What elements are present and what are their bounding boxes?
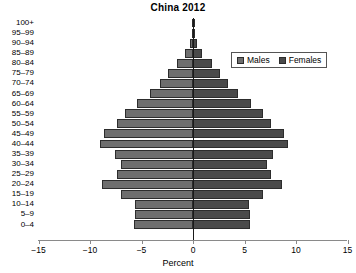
- bar-males: [104, 129, 193, 138]
- bar-females: [193, 89, 238, 98]
- bar-males: [168, 69, 193, 78]
- x-axis-tick: [296, 240, 297, 244]
- x-axis-tick-label: 5: [225, 245, 265, 255]
- bar-males: [115, 150, 193, 159]
- bar-females: [193, 190, 263, 199]
- bar-males: [125, 109, 193, 118]
- bar-females: [193, 59, 212, 68]
- bar-males: [137, 99, 193, 108]
- zero-axis-line: [193, 18, 194, 240]
- legend-swatch-females-icon: [279, 57, 286, 64]
- x-axis-tick: [245, 240, 246, 244]
- chart-legend: Males Females: [231, 52, 327, 68]
- bar-males: [160, 79, 193, 88]
- y-axis-labels: 100+95–9990–9485–8980–8475–7970–7465–696…: [0, 18, 34, 240]
- x-axis-tick-label: 10: [276, 245, 316, 255]
- bar-males: [100, 140, 193, 149]
- y-axis-tick-label: 20–24: [0, 179, 34, 189]
- y-axis-tick-label: 70–74: [0, 78, 34, 88]
- y-axis-tick-label: 95–99: [0, 28, 34, 38]
- bar-females: [193, 220, 250, 229]
- bar-males: [121, 160, 193, 169]
- bar-males: [117, 170, 193, 179]
- y-axis-tick-label: 45–49: [0, 129, 34, 139]
- y-axis-tick-label: 10–14: [0, 199, 34, 209]
- x-axis-tick-label: −5: [122, 245, 162, 255]
- y-axis-tick-label: 25–29: [0, 169, 34, 179]
- y-axis-tick-label: 100+: [0, 18, 34, 28]
- y-axis-tick-label: 15–19: [0, 189, 34, 199]
- bar-males: [121, 190, 193, 199]
- bar-females: [193, 140, 288, 149]
- y-axis-spacer: [0, 230, 34, 240]
- legend-label-males: Males: [247, 55, 270, 65]
- x-axis-tick-label: −10: [70, 245, 110, 255]
- bar-females: [193, 150, 273, 159]
- bar-males: [135, 200, 193, 209]
- y-axis-tick-label: 90–94: [0, 38, 34, 48]
- y-axis-tick-label: 80–84: [0, 58, 34, 68]
- x-axis-tick: [142, 240, 143, 244]
- x-axis-tick-label: −15: [19, 245, 59, 255]
- y-axis-tick-label: 40–44: [0, 139, 34, 149]
- y-axis-tick-label: 50–54: [0, 119, 34, 129]
- bar-females: [193, 180, 282, 189]
- x-axis-tick: [90, 240, 91, 244]
- bar-females: [193, 99, 251, 108]
- bar-females: [193, 160, 267, 169]
- bar-females: [193, 79, 228, 88]
- legend-label-females: Females: [289, 55, 322, 65]
- bar-females: [193, 129, 284, 138]
- y-axis-tick-label: 65–69: [0, 89, 34, 99]
- x-axis-tick-label: 0: [173, 245, 213, 255]
- y-axis-tick-label: 75–79: [0, 68, 34, 78]
- y-axis-tick-label: 5–9: [0, 209, 34, 219]
- bar-females: [193, 109, 263, 118]
- bar-females: [193, 170, 271, 179]
- y-axis-tick-label: 30–34: [0, 159, 34, 169]
- y-axis-tick-label: 85–89: [0, 48, 34, 58]
- y-axis-tick-label: 0–4: [0, 220, 34, 230]
- y-axis-tick-label: 35–39: [0, 149, 34, 159]
- bar-males: [102, 180, 193, 189]
- bar-females: [193, 119, 271, 128]
- bar-males: [185, 49, 193, 58]
- bar-males: [135, 210, 193, 219]
- x-axis-tick-label: 15: [328, 245, 356, 255]
- x-axis-tick: [39, 240, 40, 244]
- y-axis-tick-label: 55–59: [0, 109, 34, 119]
- bar-males: [150, 89, 193, 98]
- bar-males: [117, 119, 193, 128]
- bar-females: [193, 69, 220, 78]
- bar-males: [134, 220, 193, 229]
- legend-entry-females: Females: [279, 55, 322, 65]
- chart-title: China 2012: [0, 2, 356, 13]
- x-axis-title: Percent: [0, 258, 356, 268]
- x-axis-tick: [348, 240, 349, 244]
- bar-females: [193, 49, 202, 58]
- legend-entry-males: Males: [237, 55, 270, 65]
- x-axis-tick: [193, 240, 194, 244]
- bar-females: [193, 200, 249, 209]
- legend-swatch-males-icon: [237, 57, 244, 64]
- bar-males: [177, 59, 193, 68]
- bar-females: [193, 210, 250, 219]
- population-pyramid-chart: China 2012 100+95–9990–9485–8980–8475–79…: [0, 0, 356, 273]
- y-axis-tick-label: 60–64: [0, 99, 34, 109]
